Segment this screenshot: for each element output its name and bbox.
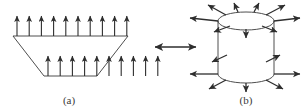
panel-b-label: (b)	[240, 94, 253, 107]
figure-background	[0, 0, 301, 111]
figure-diagram: (a) (b)	[0, 0, 301, 111]
figure-container: (a) (b)	[0, 0, 301, 111]
panel-a-label: (a)	[63, 94, 76, 107]
